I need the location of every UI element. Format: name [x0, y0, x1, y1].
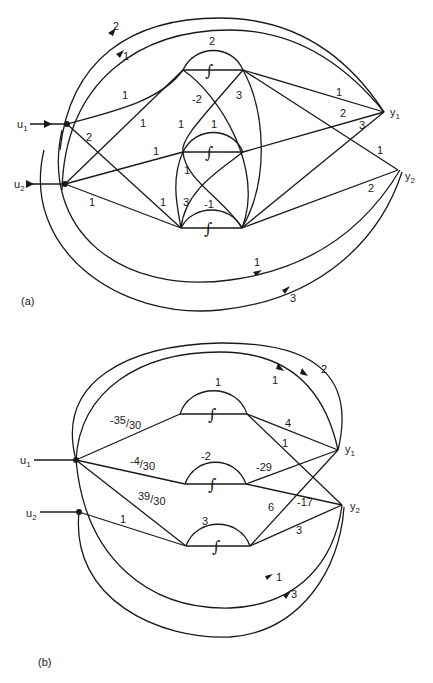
arrow-icon	[26, 180, 34, 188]
edge-label-fraction: -4/30	[130, 455, 155, 472]
edge-label-fraction: 39/30	[138, 490, 166, 507]
panel-label-b: (b)	[38, 656, 51, 668]
y1-label-b: y1	[345, 443, 356, 458]
edge-label: 6	[268, 501, 274, 513]
edge-label: 3	[291, 588, 297, 600]
integrator-1-b: ∫ 1	[180, 376, 247, 424]
edge-label: 1	[215, 376, 221, 388]
edge-label: 1	[336, 86, 342, 98]
edge-label: 2	[321, 363, 327, 375]
edge-label: 1	[276, 571, 282, 583]
integrator-1-a: ∫ 2	[183, 35, 243, 80]
edge-label: -29	[256, 461, 272, 473]
edge-label: 1	[140, 117, 146, 129]
integrator-icon: ∫	[204, 219, 212, 238]
edge-label: -1	[204, 198, 214, 210]
edge-label: 2	[368, 182, 374, 194]
integrator-icon: ∫	[212, 537, 220, 556]
edge-label: 2	[113, 20, 119, 32]
edge-label: 3	[290, 292, 296, 304]
y2-label-b: y2	[350, 500, 361, 515]
u1-label-a: u1	[17, 118, 28, 133]
edge-label: 1	[123, 50, 129, 62]
edge-label: 2	[209, 35, 215, 47]
y2-label-a: y2	[405, 170, 416, 185]
panel-b: u1 u2 y1 y2 2 1 1 3 ∫ 1	[20, 343, 361, 668]
u1-label-b: u1	[20, 454, 31, 469]
edge-label: 1	[282, 437, 288, 449]
edge-label: 1	[377, 144, 383, 156]
integrator-icon: ∫	[205, 143, 213, 162]
edge-label: 1	[153, 145, 159, 157]
edge-label: 2	[340, 107, 346, 119]
edge-label: 3	[202, 515, 208, 527]
input-u2-b: u2	[26, 507, 82, 522]
u2-label-b: u2	[26, 507, 37, 522]
edge-label: 2	[86, 131, 92, 143]
edge-label: -2	[192, 93, 202, 105]
arrow-icon	[44, 120, 52, 128]
edge-label: 1	[178, 118, 184, 130]
edge-label-fraction: -35/30	[110, 414, 141, 431]
signal-flow-figure: u1 u2 y1 y2 2 1 1 3 ∫ 2	[0, 0, 433, 683]
edge-label: 3	[183, 196, 189, 208]
edge-label: -2	[201, 450, 211, 462]
panel-a: u1 u2 y1 y2 2 1 1 3 ∫ 2	[14, 18, 416, 311]
integrator-icon: ∫	[208, 405, 216, 424]
integrator-3-b: ∫ 3	[186, 515, 250, 556]
edge-label: 1	[184, 164, 190, 176]
panel-label-a: (a)	[21, 295, 34, 307]
integrator-icon: ∫	[205, 61, 213, 80]
u2-label-a: u2	[14, 178, 25, 193]
edge-label: 1	[89, 196, 95, 208]
integrator-2-a: ∫ 1	[183, 118, 243, 162]
edge-label: 1	[122, 89, 128, 101]
edge-label: 1	[272, 374, 278, 386]
edge-label: 1	[160, 196, 166, 208]
edge-label: 1	[254, 256, 260, 268]
edge-label: 1	[120, 513, 126, 525]
integrator-icon: ∫	[208, 475, 216, 494]
edge-label: 3	[236, 89, 242, 101]
edge-label: 3	[359, 119, 365, 131]
edge-label: 1	[211, 118, 217, 130]
y1-label-a: y1	[390, 106, 401, 121]
integrator-3-a: ∫ -1	[181, 198, 242, 238]
edge-label: -17	[297, 496, 313, 508]
integrator-2-b: ∫ -2	[185, 450, 246, 494]
input-u1-b: u1	[20, 454, 79, 469]
edge-label: 3	[296, 524, 302, 536]
edge-label: 4	[285, 417, 291, 429]
